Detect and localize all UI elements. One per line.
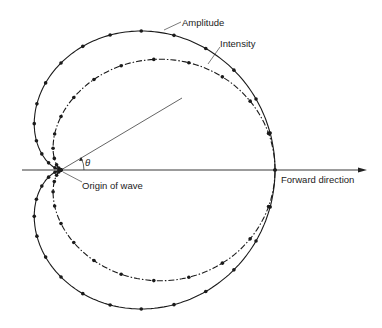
- origin-leader: [63, 172, 82, 182]
- intensity-curve-point: [55, 173, 59, 177]
- intensity-curve-point: [92, 78, 96, 82]
- amplitude-curve-point: [32, 215, 36, 219]
- intensity-curve-point: [72, 96, 76, 100]
- intensity-curve-point: [152, 279, 156, 283]
- amplitude-curve-point: [32, 122, 36, 126]
- intensity-curve-point: [187, 61, 191, 65]
- amplitude-curve-point: [59, 61, 63, 65]
- amplitude-curve-point: [40, 152, 44, 156]
- amplitude-curve-point: [53, 166, 57, 170]
- amplitude-curve-point: [172, 303, 176, 307]
- cardioid-diagram: θ Origin of wave Forward direction Ampli…: [0, 0, 382, 328]
- amplitude-curve-point: [35, 234, 39, 238]
- origin-label: Origin of wave: [82, 180, 143, 191]
- amplitude-curve-point: [47, 175, 51, 179]
- intensity-curve-point: [248, 237, 252, 241]
- amplitude-curve-point: [139, 29, 143, 33]
- amplitude-curve-point: [59, 275, 63, 279]
- amplitude-leader: [164, 22, 181, 30]
- amplitude-curve-point: [47, 161, 51, 165]
- amplitude-label: Amplitude: [182, 17, 224, 28]
- intensity-label: Intensity: [220, 38, 256, 49]
- intensity-curve-point: [221, 75, 225, 79]
- intensity-curve-point: [248, 99, 252, 103]
- intensity-curve-point: [55, 163, 59, 167]
- intensity-curve-point: [59, 115, 63, 119]
- intensity-curve-point: [92, 259, 96, 263]
- amplitude-curve-point: [139, 307, 143, 311]
- amplitude-curve-point: [35, 197, 39, 201]
- intensity-curve-point: [221, 261, 225, 265]
- amplitude-curve-point: [254, 239, 258, 243]
- amplitude-curve-point: [108, 303, 112, 307]
- radius-line: [61, 98, 182, 170]
- amplitude-curve-point: [254, 97, 258, 101]
- amplitude-curve-point: [108, 33, 112, 37]
- intensity-curve-point: [51, 190, 55, 194]
- intensity-curve-point: [267, 205, 271, 209]
- intensity-curve-point: [53, 204, 57, 208]
- intensity-curve-point: [72, 241, 76, 245]
- intensity-leader: [208, 47, 220, 64]
- intensity-curve-point: [267, 132, 271, 136]
- intensity-curve-point: [53, 157, 57, 161]
- intensity-curve-point: [152, 58, 156, 62]
- arrow-head-icon: [358, 168, 367, 173]
- amplitude-curve-point: [53, 170, 57, 174]
- amplitude-curve-point: [204, 290, 208, 294]
- theta-label: θ: [85, 157, 91, 168]
- amplitude-curve-point: [35, 102, 39, 106]
- amplitude-curve-point: [232, 268, 236, 272]
- intensity-curve-point: [53, 132, 57, 136]
- amplitude-curve-point: [40, 184, 44, 188]
- amplitude-curve-point: [81, 45, 85, 49]
- intensity-curve-point: [59, 222, 63, 226]
- intensity-curve-point: [57, 170, 61, 174]
- amplitude-curve-point: [81, 292, 85, 296]
- intensity-curve-point: [119, 272, 123, 276]
- intensity-curve-point: [187, 275, 191, 279]
- intensity-curve-point: [119, 64, 123, 68]
- forward-label: Forward direction: [281, 174, 354, 185]
- amplitude-curve-point: [44, 81, 48, 85]
- amplitude-curve-point: [204, 47, 208, 51]
- amplitude-curve-point: [172, 34, 176, 38]
- intensity-curve-point: [53, 180, 57, 184]
- amplitude-curve-point: [44, 255, 48, 259]
- intensity-curve-point: [51, 146, 55, 150]
- amplitude-curve-point: [232, 68, 236, 72]
- amplitude-curve-point: [35, 139, 39, 143]
